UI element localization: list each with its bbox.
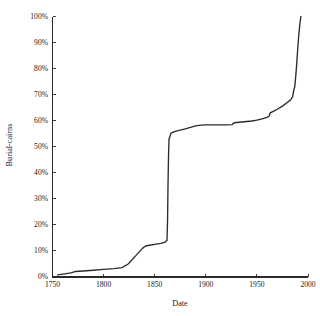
y-axis-tick-labels: 0%10%20%30%40%50%60%70%80%90%100% — [30, 12, 48, 282]
x-axis-tick-labels: 175018001850190019502000 — [45, 280, 316, 289]
axis-lines — [53, 17, 309, 278]
y-tick-label: 90% — [34, 38, 49, 47]
axes-group — [53, 17, 309, 278]
series-group — [58, 17, 301, 275]
x-axis-title: Date — [172, 299, 188, 308]
y-tick-label: 50% — [34, 142, 49, 151]
x-tick-label: 1750 — [45, 280, 60, 289]
x-tick-label: 1950 — [249, 280, 264, 289]
x-tick-label: 1850 — [147, 280, 162, 289]
y-tick-label: 30% — [34, 194, 49, 203]
y-tick-label: 40% — [34, 168, 49, 177]
x-tick-label: 2000 — [300, 280, 315, 289]
y-tick-label: 70% — [34, 90, 49, 99]
chart-plot-svg: 0%10%20%30%40%50%60%70%80%90%100% 175018… — [0, 0, 320, 316]
y-tick-label: 80% — [34, 64, 49, 73]
y-tick-label: 20% — [34, 220, 49, 229]
y-tick-label: 60% — [34, 116, 49, 125]
chart-container: 0%10%20%30%40%50%60%70%80%90%100% 175018… — [0, 0, 320, 316]
y-axis-title: Burial-cairns — [5, 124, 14, 167]
x-tick-label: 1900 — [198, 280, 213, 289]
y-tick-label: 10% — [34, 246, 49, 255]
x-tick-label: 1800 — [96, 280, 111, 289]
data-line-series-0 — [58, 17, 301, 275]
y-tick-label: 100% — [30, 12, 48, 21]
